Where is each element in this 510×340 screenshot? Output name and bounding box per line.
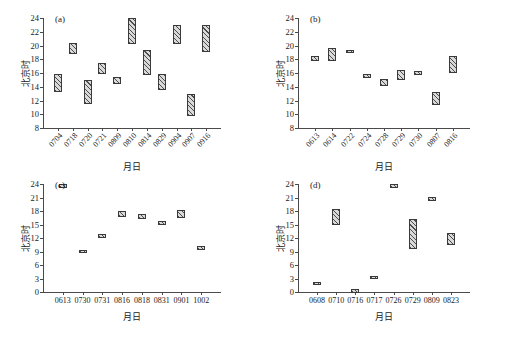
range-bar	[449, 56, 457, 73]
y-axis-line	[43, 184, 44, 292]
y-tick-label: 24	[31, 180, 40, 189]
range-bar	[69, 43, 77, 53]
range-bar	[409, 219, 417, 249]
y-tick-label: 20	[31, 41, 40, 50]
range-bar	[98, 234, 106, 238]
y-tick-label: 14	[31, 83, 40, 92]
range-bar	[328, 48, 336, 62]
x-tick-label: 0613	[55, 297, 71, 305]
x-tick	[336, 292, 337, 295]
x-tick	[317, 292, 318, 295]
y-tick-label: 15	[286, 220, 295, 229]
x-axis-line	[298, 292, 470, 293]
y-tick	[40, 114, 43, 115]
y-tick	[40, 46, 43, 47]
range-bar	[397, 70, 405, 80]
y-tick-label: 24	[286, 180, 295, 189]
y-tick-label: 9	[35, 247, 39, 256]
range-bar	[311, 56, 319, 62]
panel-b: 8101214161820222406130614072207240728072…	[255, 0, 510, 170]
y-tick-label: 0	[35, 288, 39, 297]
y-tick	[40, 198, 43, 199]
y-tick	[40, 184, 43, 185]
panel-letter: (c)	[55, 180, 65, 190]
x-tick	[181, 292, 182, 295]
panel-d: 0369121518212406080710071607170726072908…	[255, 170, 510, 340]
y-tick	[295, 59, 298, 60]
y-tick-label: 10	[31, 110, 40, 119]
range-bar	[428, 197, 436, 202]
y-tick-label: 0	[290, 288, 294, 297]
y-tick	[295, 18, 298, 19]
x-tick	[374, 292, 375, 295]
x-tick	[83, 292, 84, 295]
y-tick-label: 24	[31, 14, 40, 23]
range-bar	[173, 25, 181, 44]
x-axis-title: 月日	[375, 310, 393, 323]
range-bar	[118, 211, 126, 217]
y-tick-label: 10	[286, 110, 295, 119]
range-bar	[158, 221, 166, 225]
range-bar	[197, 246, 205, 250]
x-tick-label: 0818	[134, 297, 150, 305]
y-tick	[295, 73, 298, 74]
y-tick-label: 18	[31, 55, 40, 64]
x-tick	[162, 292, 163, 295]
range-bar	[54, 74, 62, 91]
y-tick	[40, 59, 43, 60]
x-tick-label: 0831	[154, 297, 170, 305]
y-tick-label: 12	[31, 96, 40, 105]
plot-area-d: 0369121518212406080710071607170726072908…	[298, 184, 470, 292]
plot-area-a: 8101214161820222407040718072007210809081…	[43, 18, 221, 128]
x-tick	[63, 292, 64, 295]
range-bar	[370, 276, 378, 280]
y-tick	[40, 32, 43, 33]
x-tick	[418, 128, 419, 131]
range-bar	[332, 209, 340, 225]
x-tick-label: 1002	[193, 297, 209, 305]
x-tick	[102, 292, 103, 295]
y-axis-line	[43, 18, 44, 128]
x-tick-label: 0731	[94, 297, 110, 305]
figure-panels: 8101214161820222407040718072007210809081…	[0, 0, 510, 340]
x-tick	[102, 128, 103, 131]
y-tick-label: 3	[35, 274, 39, 283]
range-bar	[158, 74, 166, 91]
range-bar	[380, 79, 388, 87]
y-tick	[40, 87, 43, 88]
y-axis-title: 北京时	[19, 219, 32, 259]
y-tick-label: 12	[286, 96, 295, 105]
y-tick-label: 6	[35, 261, 39, 270]
x-tick-label: 0901	[173, 297, 189, 305]
y-tick	[40, 128, 43, 129]
x-tick-label: 0716	[347, 297, 363, 305]
x-tick-label: 0816	[114, 297, 130, 305]
y-tick	[40, 279, 43, 280]
x-tick-label: 0809	[424, 297, 440, 305]
y-tick	[295, 101, 298, 102]
x-tick	[432, 292, 433, 295]
y-tick	[40, 252, 43, 253]
y-tick-label: 20	[286, 41, 295, 50]
y-tick	[295, 225, 298, 226]
y-tick	[295, 252, 298, 253]
panel-c: 0369121518212406130730073108160818083109…	[0, 170, 255, 340]
y-tick	[295, 292, 298, 293]
y-tick-label: 6	[290, 261, 294, 270]
range-bar	[79, 250, 87, 254]
y-tick	[295, 128, 298, 129]
range-bar	[346, 50, 354, 54]
y-tick-label: 18	[31, 207, 40, 216]
y-tick	[295, 279, 298, 280]
panel-letter: (a)	[55, 14, 65, 24]
range-bar	[98, 63, 106, 74]
x-axis-line	[43, 292, 221, 293]
y-tick	[40, 225, 43, 226]
y-tick-label: 14	[286, 83, 295, 92]
y-tick	[295, 198, 298, 199]
y-tick-label: 12	[286, 234, 295, 243]
y-tick-label: 16	[286, 69, 295, 78]
range-bar	[143, 50, 151, 75]
y-tick-label: 12	[31, 234, 40, 243]
plot-area-b: 8101214161820222406130614072207240728072…	[298, 18, 470, 128]
